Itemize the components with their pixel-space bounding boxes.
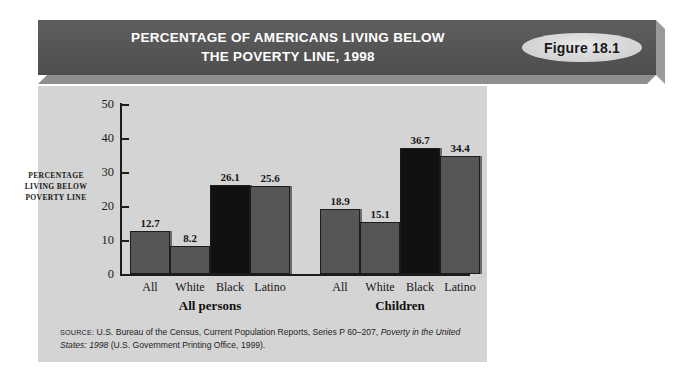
y-tick-mark-0 <box>122 274 129 276</box>
header-bevel-right <box>656 20 665 84</box>
bar-value-children-all: 18.9 <box>320 195 360 207</box>
bar-value-all-persons-latino: 25.6 <box>250 172 290 184</box>
figure-number-label: Figure 18.1 <box>544 40 620 56</box>
bar-value-all-persons-white: 8.2 <box>170 232 210 244</box>
bar-children-all <box>320 209 360 274</box>
y-tick-mark-30 <box>122 172 129 174</box>
x-axis-line <box>120 274 470 276</box>
x-label-children-latino: Latino <box>440 280 480 295</box>
bar-value-all-persons-all: 12.7 <box>130 217 170 229</box>
bar-children-black <box>400 148 440 274</box>
source-text-part-1: U.S. Bureau of the Census, Current Popul… <box>94 327 380 337</box>
header-bevel-bottom <box>38 75 656 84</box>
page-title-line-1: PERCENTAGE OF AMERICANS LIVING BELOW <box>38 28 538 47</box>
bar-children-white <box>360 222 400 274</box>
page-title: PERCENTAGE OF AMERICANS LIVING BELOW THE… <box>38 28 538 66</box>
y-tick-label-30: 30 <box>80 165 114 180</box>
x-label-all-persons-all: All <box>130 280 170 295</box>
y-tick-label-20: 20 <box>80 199 114 214</box>
bar-all-persons-white <box>170 246 210 274</box>
y-axis-line <box>120 103 122 275</box>
source-note: SOURCE: U.S. Bureau of the Census, Curre… <box>60 326 470 352</box>
y-tick-label-0: 0 <box>80 267 114 282</box>
x-label-all-persons-black: Black <box>210 280 250 295</box>
bar-all-persons-all <box>130 231 170 274</box>
y-tick-mark-10 <box>122 240 129 242</box>
figure-number-badge: Figure 18.1 <box>522 33 642 62</box>
header-face: PERCENTAGE OF AMERICANS LIVING BELOW THE… <box>38 20 656 75</box>
x-label-children-white: White <box>360 280 400 295</box>
y-tick-label-40: 40 <box>80 131 114 146</box>
y-axis-title-line-2: LIVING BELOW <box>2 181 110 192</box>
bar-value-all-persons-black: 26.1 <box>210 171 250 183</box>
figure-header-banner: PERCENTAGE OF AMERICANS LIVING BELOW THE… <box>38 20 656 75</box>
group-label-all-persons: All persons <box>130 298 290 314</box>
bar-value-children-latino: 34.4 <box>440 142 480 154</box>
y-tick-mark-20 <box>122 206 129 208</box>
page-title-line-2: THE POVERTY LINE, 1998 <box>38 47 538 66</box>
bar-value-children-white: 15.1 <box>360 208 400 220</box>
x-label-children-black: Black <box>400 280 440 295</box>
x-label-children-all: All <box>320 280 360 295</box>
bar-all-persons-black <box>210 185 250 274</box>
bar-children-latino <box>440 156 480 274</box>
source-kicker: SOURCE: <box>60 328 94 337</box>
bar-chart: PERCENTAGE LIVING BELOW POVERTY LINE 0 1… <box>38 86 487 362</box>
group-label-children: Children <box>320 298 480 314</box>
y-tick-mark-50 <box>122 104 129 106</box>
source-text-part-2: (U.S. Government Printing Office, 1999). <box>108 340 265 350</box>
y-tick-label-50: 50 <box>80 97 114 112</box>
figure-body-panel: PERCENTAGE LIVING BELOW POVERTY LINE 0 1… <box>38 86 487 362</box>
y-tick-mark-40 <box>122 138 129 140</box>
x-label-all-persons-latino: Latino <box>250 280 290 295</box>
bar-all-persons-latino <box>250 186 290 274</box>
x-label-all-persons-white: White <box>170 280 210 295</box>
y-tick-label-10: 10 <box>80 233 114 248</box>
bar-value-children-black: 36.7 <box>400 134 440 146</box>
